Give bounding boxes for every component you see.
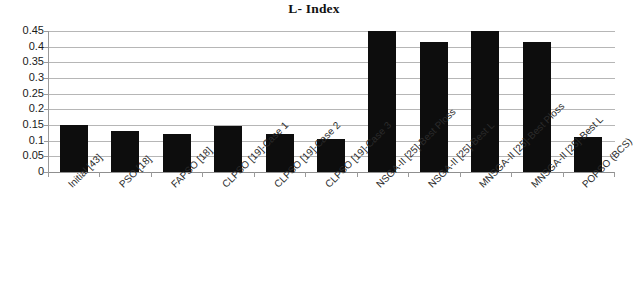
y-axis-tick-label: 0 — [0, 166, 44, 177]
x-axis-tick-mark — [151, 172, 152, 177]
x-axis-tick-mark — [357, 172, 358, 177]
x-axis-tick-mark — [563, 172, 564, 177]
bar[interactable] — [368, 31, 396, 172]
y-axis-tick-label: 0.35 — [0, 56, 44, 67]
y-axis-tick-label: 0.4 — [0, 41, 44, 52]
y-axis-tick-label: 0.2 — [0, 103, 44, 114]
bar[interactable] — [471, 31, 499, 172]
x-axis-tick-mark — [99, 172, 100, 177]
y-axis-tick-labels: 00.050.10.150.20.250.30.350.40.45 — [0, 31, 44, 172]
x-axis-tick-mark — [254, 172, 255, 177]
y-axis-tick-label: 0.3 — [0, 72, 44, 83]
x-axis-tick-mark — [305, 172, 306, 177]
y-axis-tick-label: 0.45 — [0, 25, 44, 36]
x-axis-tick-mark — [614, 172, 615, 177]
x-axis-tick-mark — [460, 172, 461, 177]
x-axis-tick-mark — [511, 172, 512, 177]
bar[interactable] — [420, 42, 448, 172]
x-axis-tick-mark — [408, 172, 409, 177]
x-axis-tick-mark — [202, 172, 203, 177]
chart-title: L- Index — [0, 1, 628, 17]
y-axis-tick-label: 0.05 — [0, 150, 44, 161]
y-axis-tick-label: 0.25 — [0, 88, 44, 99]
bars-layer — [48, 31, 614, 172]
y-axis-tick-label: 0.1 — [0, 135, 44, 146]
y-axis-tick-label: 0.15 — [0, 119, 44, 130]
x-axis-tick-mark — [48, 172, 49, 177]
bar[interactable] — [523, 42, 551, 172]
